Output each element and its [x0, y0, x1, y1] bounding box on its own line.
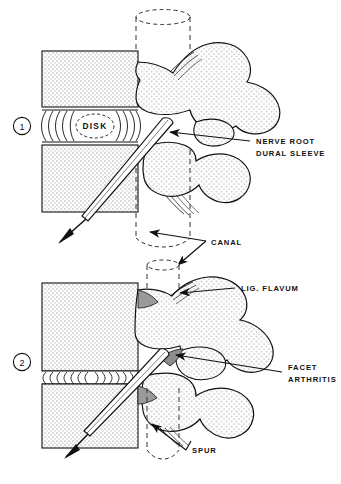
- panel2-canal-top-ellipse: [147, 260, 179, 270]
- figure-caption: [0, 470, 341, 484]
- canal-top-ellipse: [136, 10, 190, 25]
- panel2-number-text: 2: [19, 358, 24, 368]
- label-lig-flavum: LIG. FLAVUM: [241, 284, 299, 293]
- panel1-disk: DISK: [42, 110, 141, 142]
- panel1-upper-vertebral-body: [42, 51, 138, 107]
- spine-illustration: DISK: [0, 0, 341, 484]
- panel2-collapsed-disk: [42, 371, 140, 384]
- panel1-number-text: 1: [19, 122, 24, 132]
- label-facet-line1: FACET: [288, 363, 317, 372]
- panel1-facet-joint: [194, 119, 234, 146]
- panel2-upper-vertebral-body: [42, 283, 138, 371]
- panel1-number-marker: 1: [13, 117, 30, 134]
- label-nerve-root-line1: NERVE ROOT: [256, 137, 315, 146]
- label-nerve-root-line2: DURAL SLEEVE: [256, 149, 325, 158]
- figure-canvas: DISK: [0, 0, 341, 484]
- disk-label: DISK: [83, 121, 108, 131]
- label-spur: SPUR: [192, 446, 217, 455]
- panel2-number-marker: 2: [13, 353, 30, 370]
- label-canal: CANAL: [211, 238, 242, 247]
- label-facet-line2: ARTHRITIS: [288, 375, 337, 384]
